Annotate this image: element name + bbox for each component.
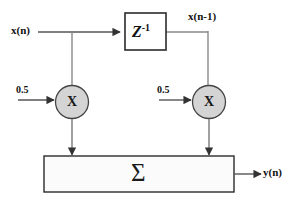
delayed-input-label: x(n-1) [188, 11, 216, 22]
diagram-canvas: x(n) x(n-1) y(n) 0.5 0.5 X X Z-1 Σ [0, 0, 296, 203]
delay-base-label: Z [132, 23, 142, 40]
input-label: x(n) [11, 25, 30, 36]
coefficient-left-label: 0.5 [16, 85, 29, 95]
multiplier-left-label: X [67, 94, 77, 110]
summation-label: Σ [131, 160, 146, 185]
delay-exponent-label: -1 [142, 22, 150, 33]
coefficient-right-label: 0.5 [157, 85, 170, 95]
output-label: y(n) [263, 167, 282, 178]
multiplier-right-label: X [204, 94, 214, 110]
delay-block-label: Z-1 [132, 22, 150, 41]
